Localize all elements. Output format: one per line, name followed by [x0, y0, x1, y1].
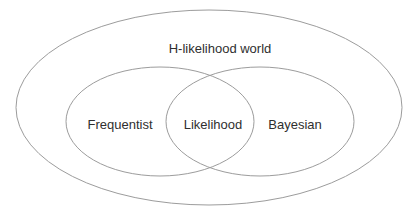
outer-ellipse-h-likelihood-world: [16, 10, 402, 205]
frequentist-label: Frequentist: [87, 118, 152, 131]
diagram-canvas: [0, 0, 420, 213]
outer-label: H-likelihood world: [169, 42, 272, 55]
likelihood-label: Likelihood: [184, 118, 243, 131]
bayesian-label: Bayesian: [268, 118, 321, 131]
venn-diagram: H-likelihood world Frequentist Likelihoo…: [0, 0, 420, 213]
